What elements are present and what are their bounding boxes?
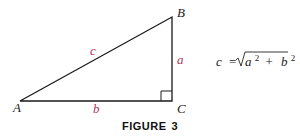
side-label-a: a: [177, 52, 184, 67]
vertex-label-c: C: [177, 101, 186, 116]
formula-lhs: c: [216, 54, 222, 69]
caption-word: FIGURE: [122, 120, 167, 132]
side-label-b: b: [93, 101, 100, 116]
side-label-c: c: [90, 43, 96, 58]
svg-text:c =: c =: [216, 54, 236, 69]
caption-number: 3: [171, 120, 178, 132]
formula-b-exponent: 2: [291, 53, 296, 63]
pythagorean-formula: c = a 2 + b 2: [216, 49, 295, 69]
formula-a: a: [245, 54, 252, 69]
vertex-label-b: B: [177, 5, 185, 20]
right-angle-marker: [161, 91, 172, 101]
formula-a-exponent: 2: [255, 53, 260, 63]
formula-b: b: [281, 54, 288, 69]
right-triangle-diagram: A B C c a b c = a 2 + b 2: [0, 0, 300, 138]
vertex-label-a: A: [12, 100, 21, 115]
formula-equals: =: [229, 54, 236, 69]
formula-plus: +: [266, 54, 273, 69]
triangle-shape: [20, 17, 172, 101]
figure-caption: FIGURE3: [0, 120, 300, 132]
